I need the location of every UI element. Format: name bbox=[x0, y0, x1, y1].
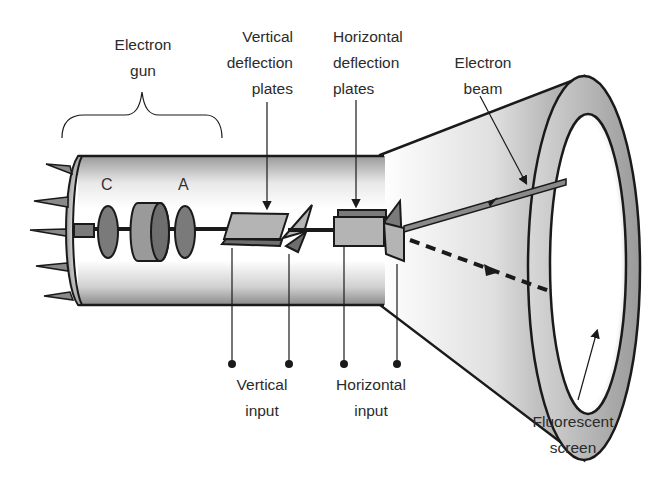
vertical-input-terminal-2 bbox=[285, 360, 293, 368]
cathode-label: C bbox=[101, 176, 113, 193]
svg-text:Fluorescent: Fluorescent bbox=[533, 413, 615, 430]
label-electron-beam: Electron beam bbox=[455, 54, 512, 97]
connector-pins bbox=[30, 164, 73, 300]
svg-text:Electron: Electron bbox=[455, 54, 512, 71]
svg-text:deflection: deflection bbox=[333, 54, 399, 71]
electron-gun-brace bbox=[62, 92, 222, 138]
svg-text:Horizontal: Horizontal bbox=[333, 28, 403, 45]
svg-text:input: input bbox=[245, 402, 279, 419]
svg-text:input: input bbox=[354, 402, 388, 419]
label-horizontal-deflection-plates: Horizontal deflection plates bbox=[333, 28, 403, 97]
vertical-input-terminal-1 bbox=[228, 360, 236, 368]
label-vertical-deflection-plates: Vertical deflection plates bbox=[227, 28, 294, 97]
svg-text:beam: beam bbox=[464, 80, 503, 97]
label-horizontal-input: Horizontal input bbox=[336, 376, 406, 419]
input-terminals bbox=[228, 360, 401, 368]
cathode bbox=[98, 206, 118, 258]
svg-text:plates: plates bbox=[252, 80, 294, 97]
horizontal-input-terminal-1 bbox=[340, 360, 348, 368]
svg-text:Horizontal: Horizontal bbox=[336, 376, 406, 393]
svg-text:gun: gun bbox=[130, 62, 156, 79]
tube-body bbox=[30, 76, 640, 460]
svg-text:deflection: deflection bbox=[227, 54, 293, 71]
heater bbox=[74, 224, 94, 237]
label-vertical-input: Vertical input bbox=[237, 376, 288, 419]
svg-text:Vertical: Vertical bbox=[237, 376, 288, 393]
fluorescent-screen bbox=[550, 114, 626, 414]
svg-text:Vertical: Vertical bbox=[242, 28, 293, 45]
anode-label: A bbox=[178, 176, 189, 193]
svg-text:screen: screen bbox=[550, 439, 597, 456]
anode bbox=[175, 206, 195, 258]
crt-diagram: C A Electron gun Vertical deflection pla… bbox=[0, 0, 663, 481]
label-electron-gun: Electron gun bbox=[115, 36, 172, 79]
svg-text:Electron: Electron bbox=[115, 36, 172, 53]
svg-text:plates: plates bbox=[333, 80, 375, 97]
horizontal-input-terminal-2 bbox=[393, 360, 401, 368]
